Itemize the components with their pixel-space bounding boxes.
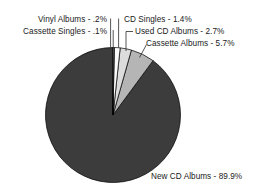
label-cd-singles: CD Singles - 1.4% [124,15,192,25]
label-cassette-albums: Cassette Albums - 5.7% [146,39,234,49]
pie-chart-figure: Vinyl Albums - .2% Cassette Singles - .1… [0,0,255,195]
leader-line-used-cd-albums [126,32,133,52]
pie-slices [46,48,181,183]
label-vinyl-albums: Vinyl Albums - .2% [0,15,107,25]
label-new-cd-albums: New CD Albums - 89.9% [151,172,242,182]
label-cassette-singles: Cassette Singles - .1% [0,27,107,37]
label-used-cd-albums: Used CD Albums - 2.7% [135,27,224,37]
